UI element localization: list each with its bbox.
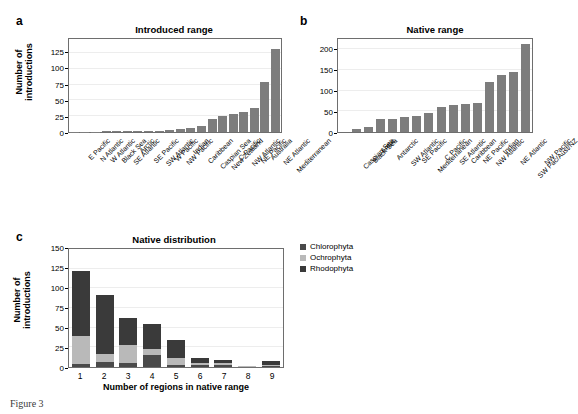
panel-a-plot-area: [68, 38, 282, 133]
bar-ne-atlantic: [497, 75, 506, 132]
legend-swatch-rhodophyta: [300, 266, 306, 272]
panel-a-ytick-0: 0: [44, 129, 64, 138]
figure-3-container: a Introduced range Number ofintroduction…: [0, 0, 578, 414]
seg-rhodophyta: [143, 324, 161, 349]
stacked-bar-6: [191, 358, 209, 367]
seg-ochrophyta: [119, 345, 137, 363]
bar-indian: [485, 82, 494, 132]
panel-c-bars: [69, 249, 283, 367]
stacked-bar-4: [143, 324, 161, 367]
bar-nw-pacific: [165, 130, 174, 132]
panel-a-ytick-125: 125: [44, 48, 64, 57]
panel-c-letter: c: [16, 230, 23, 244]
bar-new-zealand: [208, 119, 217, 132]
panel-c-ytick-100: 100: [42, 284, 64, 293]
panel-b-plot-area: [337, 38, 533, 133]
legend-swatch-chlorophyta: [300, 244, 306, 250]
seg-chlorophyta: [72, 364, 90, 367]
stacked-bar-5: [167, 340, 185, 367]
seg-rhodophyta: [167, 340, 185, 358]
panel-c-xtick-2: 2: [102, 371, 107, 381]
legend-swatch-ochrophyta: [300, 255, 306, 261]
panel-b-ytick-50: 50: [310, 107, 333, 116]
bar-ne-pacific: [239, 112, 248, 132]
bar-caribbean: [449, 105, 458, 132]
panel-c-xtick-3: 3: [126, 371, 131, 381]
seg-ochrophyta: [96, 354, 114, 363]
panel-c-ytick-75: 75: [42, 304, 64, 313]
panel-b-ytick-100: 100: [310, 86, 333, 95]
panel-b-letter: b: [300, 14, 307, 28]
panel-c-xtick-5: 5: [174, 371, 179, 381]
panel-a-ytick-100: 100: [44, 64, 64, 73]
panel-a-ylabel: Number ofintroductions: [14, 32, 34, 112]
panel-c-ylabel: Number ofintroductions: [12, 260, 32, 340]
bar-black-sea: [102, 131, 111, 132]
bar-mediterranean: [412, 116, 421, 132]
bar-arctic: [364, 127, 373, 132]
stacked-bar-1: [72, 271, 90, 367]
bar-nw-pacific: [521, 44, 530, 132]
seg-chlorophyta: [119, 363, 137, 367]
seg-ochrophyta: [72, 336, 90, 364]
bar-caribbean: [186, 128, 195, 132]
bar-mediterranean: [271, 49, 280, 133]
legend-label-ochrophyta: Ochrophyta: [310, 253, 351, 262]
bar-sw-atlantic: [388, 119, 397, 132]
panel-c-ytick-125: 125: [42, 264, 64, 273]
panel-c-ytick-150: 150: [42, 244, 64, 253]
legend-label-rhodophyta: Rhodophyta: [310, 264, 353, 273]
panel-b-ytick-150: 150: [310, 65, 333, 74]
seg-chlorophyta: [143, 355, 161, 367]
seg-rhodophyta: [119, 318, 137, 345]
bar-nw-atlantic: [229, 114, 238, 132]
bar-se-pacific: [133, 131, 142, 132]
bar-caspian-sea: [197, 126, 206, 132]
stacked-bar-7: [214, 360, 232, 367]
panel-c-plot-area: [68, 248, 284, 368]
panel-a-title: Introduced range: [60, 24, 288, 35]
stacked-bar-2: [96, 295, 114, 367]
bar-antarctic: [376, 119, 385, 132]
bar-nw-atlantic: [473, 103, 482, 132]
panel-b-ytick-0: 0: [310, 129, 333, 138]
panel-c-xtick-6: 6: [198, 371, 203, 381]
panel-a: a Introduced range Number ofintroduction…: [0, 0, 290, 212]
stacked-bar-3: [119, 318, 137, 367]
panel-c-title: Native distribution: [60, 234, 288, 245]
bar-black-sea: [352, 129, 361, 132]
panel-c-ytick-50: 50: [42, 324, 64, 333]
panel-c-xlabel: Number of regions in native range: [60, 382, 292, 392]
panel-a-ytick-75: 75: [44, 80, 64, 89]
panel-c-ytick-0: 0: [42, 364, 64, 373]
bar-arctic: [123, 131, 132, 132]
seg-ochrophyta: [238, 366, 256, 367]
seg-chlorophyta: [214, 365, 232, 367]
bar-se-pacific: [400, 117, 409, 132]
bar-c-pacific: [424, 113, 433, 132]
seg-rhodophyta: [72, 271, 90, 336]
stacked-bar-8: [238, 366, 256, 367]
figure-caption: Figure 3: [10, 398, 44, 409]
panel-c-ytick-25: 25: [42, 344, 64, 353]
seg-chlorophyta: [262, 366, 280, 367]
seg-chlorophyta: [191, 365, 209, 367]
bar-se-atlantic: [437, 107, 446, 132]
panel-c: c Native distribution Number ofintroduct…: [0, 212, 578, 397]
panel-c-xtick-8: 8: [246, 371, 251, 381]
panel-c-xtick-9: 9: [270, 371, 275, 381]
panel-c-xtick-1: 1: [78, 371, 83, 381]
panel-c-xtick-7: 7: [222, 371, 227, 381]
panel-a-letter: a: [16, 14, 23, 28]
bar-australia: [250, 108, 259, 132]
panel-a-ytick-50: 50: [44, 96, 64, 105]
legend-item-chlorophyta: Chlorophyta: [300, 242, 353, 251]
bar-se-atlantic: [112, 131, 121, 132]
panel-a-bars: [69, 39, 281, 132]
panel-b: b Native range: [290, 0, 578, 212]
panel-b-title: Native range: [330, 24, 540, 35]
bar-c-pacific: [218, 116, 227, 132]
seg-chlorophyta: [167, 365, 185, 367]
legend-label-chlorophyta: Chlorophyta: [310, 242, 353, 251]
panel-b-ytick-200: 200: [310, 44, 333, 53]
